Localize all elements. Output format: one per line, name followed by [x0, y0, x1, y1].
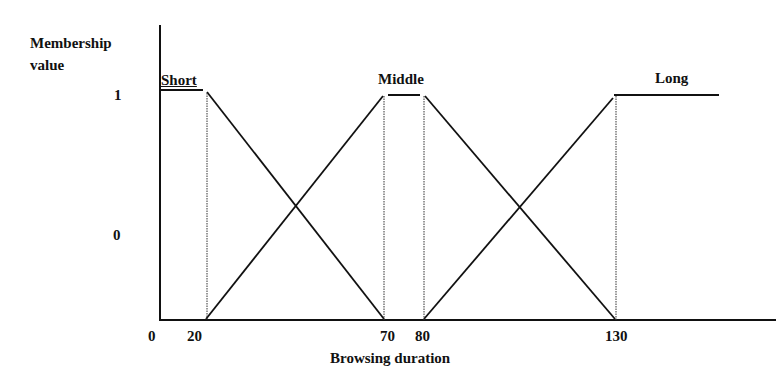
- long-rising-edge: [424, 98, 613, 319]
- y-axis-label-line2: value: [30, 58, 64, 73]
- x-axis-label: Browsing duration: [330, 351, 450, 366]
- series-label-short: Short: [161, 73, 197, 88]
- y-axis-label-line1: Membership: [30, 36, 112, 51]
- middle-rising-edge: [206, 96, 383, 319]
- series-label-long: Long: [655, 71, 688, 86]
- series-label-middle: Middle: [378, 72, 424, 87]
- y-tick-1: 1: [114, 88, 122, 103]
- x-tick-80: 80: [415, 329, 430, 344]
- y-tick-0: 0: [113, 228, 121, 243]
- x-tick-130: 130: [605, 329, 628, 344]
- x-tick-0: 0: [148, 329, 156, 344]
- x-tick-70: 70: [380, 329, 395, 344]
- x-tick-20: 20: [187, 329, 202, 344]
